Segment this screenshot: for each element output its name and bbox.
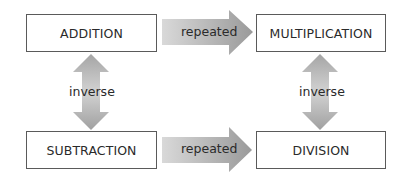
inverse-label-left: inverse bbox=[69, 84, 115, 99]
inverse-label-right: inverse bbox=[299, 84, 345, 99]
subtraction-label: SUBTRACTION bbox=[46, 143, 136, 158]
division-box: DIVISION bbox=[256, 131, 386, 169]
addition-label: ADDITION bbox=[60, 26, 123, 41]
addition-box: ADDITION bbox=[26, 14, 157, 52]
multiplication-label: MULTIPLICATION bbox=[270, 26, 373, 41]
division-label: DIVISION bbox=[292, 143, 349, 158]
repeated-label-top: repeated bbox=[181, 24, 237, 39]
subtraction-box: SUBTRACTION bbox=[26, 131, 157, 169]
multiplication-box: MULTIPLICATION bbox=[256, 14, 386, 52]
repeated-label-bottom: repeated bbox=[181, 141, 237, 156]
